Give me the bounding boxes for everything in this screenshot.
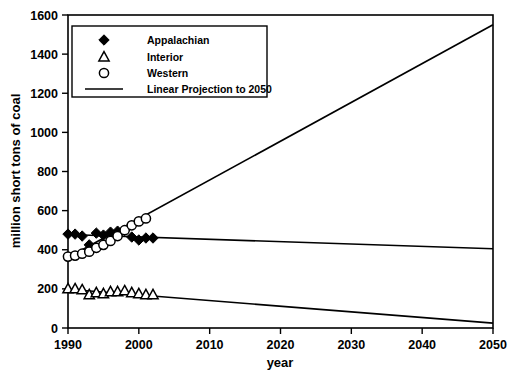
y-tick-label: 200	[37, 282, 58, 296]
data-point-filled-diamond	[148, 233, 158, 243]
chart-figure: 02004006008001000120014001600 1990200020…	[0, 0, 513, 377]
data-markers	[63, 214, 158, 299]
x-tick-label: 2050	[479, 338, 507, 352]
x-tick-label: 2040	[408, 338, 436, 352]
x-tick-label: 2020	[267, 338, 295, 352]
y-axis-label: million short tons of coal	[8, 94, 23, 249]
x-tick-label: 2030	[337, 338, 365, 352]
legend-label: Western	[147, 67, 188, 79]
chart-canvas: 02004006008001000120014001600 1990200020…	[0, 0, 513, 377]
chart-legend: AppalachianInteriorWesternLinear Project…	[72, 26, 272, 97]
y-tick-label: 400	[37, 243, 58, 257]
legend-marker-open-circle	[99, 68, 108, 77]
x-axis-ticks: 1990200020102020203020402050	[54, 328, 507, 352]
y-tick-label: 0	[51, 322, 58, 336]
y-axis-ticks: 02004006008001000120014001600	[30, 9, 68, 336]
y-tick-label: 1200	[30, 87, 58, 101]
legend-label: Linear Projection to 2050	[147, 83, 272, 95]
x-tick-label: 2000	[125, 338, 153, 352]
y-tick-label: 1400	[30, 48, 58, 62]
y-tick-label: 1600	[30, 9, 58, 23]
x-tick-label: 1990	[54, 338, 82, 352]
data-point-open-triangle	[148, 289, 158, 298]
legend-label: Interior	[147, 51, 183, 63]
y-tick-label: 1000	[30, 126, 58, 140]
y-tick-label: 600	[37, 204, 58, 218]
x-axis-label: year	[267, 355, 294, 370]
legend-label: Appalachian	[147, 34, 209, 46]
data-point-open-circle	[141, 214, 150, 223]
x-tick-label: 2010	[196, 338, 224, 352]
y-tick-label: 800	[37, 165, 58, 179]
